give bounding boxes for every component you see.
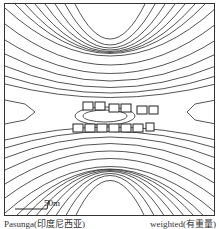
- scale-bar-label: 50m: [44, 198, 60, 208]
- caption-left: Pasunga(印度尼西亚): [4, 217, 85, 229]
- caption-right: weighted(有重量): [150, 217, 216, 229]
- scale-bar: [5, 4, 215, 216]
- contour-plot-frame: [4, 3, 215, 216]
